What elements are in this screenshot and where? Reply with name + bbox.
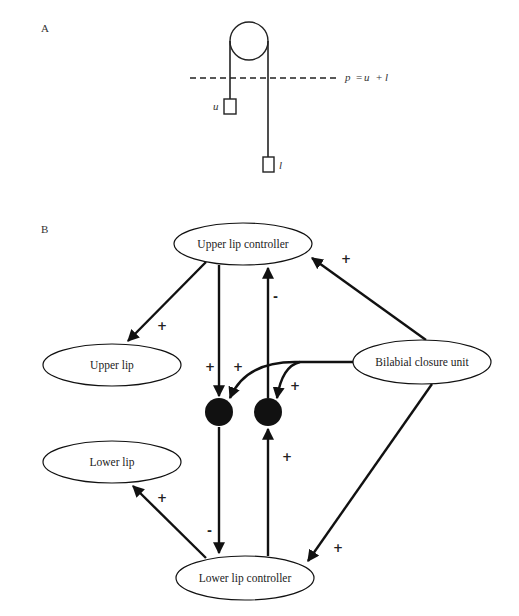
panel-a-label: A — [41, 22, 49, 34]
sign-ulc-to-upper-lip: + — [157, 319, 167, 333]
equation-equals: = — [356, 71, 362, 83]
lower-lip-controller-label: Lower lip controller — [199, 572, 292, 585]
panel-b: B Upper lip controller Upper li — [41, 223, 491, 600]
sign-bcu-to-right-junction: + — [290, 379, 300, 393]
equation-p: p — [344, 71, 351, 83]
node-lower-lip: Lower lip — [43, 441, 181, 483]
lower-lip-label: Lower lip — [89, 456, 134, 469]
edge-bcu-to-ulc — [312, 258, 426, 340]
sign-bcu-to-left-junction: + — [233, 360, 243, 374]
right-junction-node — [254, 398, 282, 426]
figure-canvas: A u l p = u + l B — [0, 0, 519, 616]
weight-u-box — [224, 99, 236, 114]
sign-right-junction-to-ulc: - — [273, 290, 278, 304]
node-bilabial-closure-unit: Bilabial closure unit — [353, 340, 491, 384]
bilabial-closure-unit-label: Bilabial closure unit — [375, 356, 469, 368]
panel-a: A u l p = u + l — [41, 22, 388, 172]
node-upper-lip-controller: Upper lip controller — [174, 223, 312, 265]
sign-llc-to-right-junction: + — [282, 450, 292, 464]
pulley-wheel — [230, 22, 268, 60]
weight-u-label: u — [213, 100, 219, 112]
equation-u: u — [364, 71, 370, 83]
upper-lip-label: Upper lip — [90, 359, 134, 372]
sign-ulc-to-left-junction: + — [205, 360, 215, 374]
left-junction-node — [205, 398, 233, 426]
equation-l: l — [385, 71, 388, 83]
sign-left-junction-to-llc: - — [207, 524, 212, 538]
sign-llc-to-lower-lip: + — [157, 491, 167, 505]
equation-plus: + — [376, 71, 382, 83]
weight-l-label: l — [279, 159, 282, 171]
sign-bcu-to-llc: + — [333, 541, 343, 555]
upper-lip-controller-label: Upper lip controller — [197, 238, 289, 251]
node-lower-lip-controller: Lower lip controller — [176, 556, 314, 600]
edge-llc-to-lower-lip — [133, 486, 206, 558]
panel-b-label: B — [41, 223, 48, 235]
weight-l-box — [263, 157, 274, 172]
sign-bcu-to-ulc: + — [341, 252, 351, 266]
equation: p = u + l — [344, 71, 388, 83]
edge-bcu-to-llc — [308, 384, 432, 561]
node-upper-lip: Upper lip — [43, 344, 181, 386]
